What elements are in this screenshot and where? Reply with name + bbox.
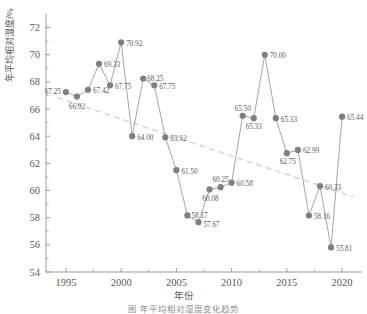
data-point[interactable] (129, 133, 135, 139)
data-point[interactable] (262, 52, 268, 58)
data-point-label: 65.33 (246, 123, 263, 131)
data-point[interactable] (74, 93, 80, 99)
y-tick-label: 64 (30, 131, 41, 142)
data-point[interactable] (251, 115, 257, 121)
data-point-label: 64.00 (137, 134, 154, 142)
data-point[interactable] (173, 167, 179, 173)
data-point-label: 61.50 (181, 168, 198, 176)
data-point-label: 63.92 (170, 135, 187, 143)
data-point[interactable] (195, 219, 201, 225)
data-point-label: 70.00 (270, 52, 287, 60)
data-point-label: 67.75 (115, 83, 132, 91)
data-point-label: 60.33 (325, 184, 342, 192)
data-point-label: 67.25 (45, 88, 62, 96)
x-tick-label: 2015 (276, 277, 297, 288)
data-point[interactable] (107, 82, 113, 88)
data-point-label: 70.92 (126, 40, 143, 48)
y-tick-label: 54 (30, 267, 41, 278)
data-point[interactable] (118, 39, 124, 45)
y-tick-label: 60 (30, 185, 41, 196)
data-point-label: 66.92 (69, 103, 86, 111)
data-point-label: 69.33 (104, 61, 121, 69)
data-point-label: 58.16 (314, 213, 331, 221)
data-point[interactable] (63, 89, 69, 95)
data-point-label: 55.81 (336, 245, 353, 253)
data-point[interactable] (96, 61, 102, 67)
data-point[interactable] (328, 244, 334, 250)
data-point[interactable] (151, 82, 157, 88)
data-point[interactable] (273, 115, 279, 121)
data-point[interactable] (206, 186, 212, 192)
y-tick-label: 58 (30, 212, 41, 223)
data-point[interactable] (306, 212, 312, 218)
data-point-label: 65.50 (235, 105, 252, 113)
axis-lines (46, 14, 362, 272)
data-point-label: 67.75 (159, 83, 176, 91)
data-point[interactable] (85, 87, 91, 93)
data-point-label: 65.44 (347, 114, 364, 122)
y-axis-label-wrap: 年平均相对湿度/% (4, 30, 16, 240)
x-axis-label: 年份 (0, 288, 367, 302)
data-point[interactable] (140, 75, 146, 81)
data-point[interactable] (240, 113, 246, 119)
data-point-label: 62.99 (303, 147, 320, 155)
data-point[interactable] (339, 114, 345, 120)
data-point[interactable] (317, 183, 323, 189)
y-tick-label: 68 (30, 76, 41, 87)
chart-plot-area: 5456586062646668707219952000200520102015… (0, 0, 367, 290)
x-tick-label: 1995 (55, 277, 76, 288)
y-tick-label: 66 (30, 104, 41, 115)
y-tick-label: 62 (30, 158, 41, 169)
data-point[interactable] (229, 180, 235, 186)
x-tick-label: 2000 (111, 277, 132, 288)
data-point-label: 58.17 (191, 212, 208, 220)
data-point[interactable] (217, 184, 223, 190)
x-tick-label: 2005 (166, 277, 187, 288)
y-tick-label: 56 (30, 239, 41, 250)
data-point-label: 62.75 (280, 158, 297, 166)
figure-caption: 图 年平均相对湿度变化趋势 (0, 302, 367, 314)
data-point[interactable] (295, 147, 301, 153)
data-point-label: 60.58 (237, 180, 254, 188)
data-point-label: 57.67 (203, 221, 220, 229)
y-tick-label: 70 (30, 49, 41, 60)
data-point-label: 60.25 (212, 176, 229, 184)
data-point-label: 68.25 (147, 75, 164, 83)
x-tick-label: 2020 (332, 277, 353, 288)
y-tick-label: 72 (30, 22, 41, 33)
data-point[interactable] (162, 134, 168, 140)
data-point-label: 65.33 (281, 116, 298, 124)
y-axis-label: 年平均相对湿度/% (3, 0, 16, 110)
data-point-label: 67.42 (93, 87, 110, 95)
data-point[interactable] (184, 212, 190, 218)
x-tick-label: 2010 (221, 277, 242, 288)
data-point[interactable] (284, 150, 290, 156)
data-point-label: 60.08 (202, 195, 219, 203)
